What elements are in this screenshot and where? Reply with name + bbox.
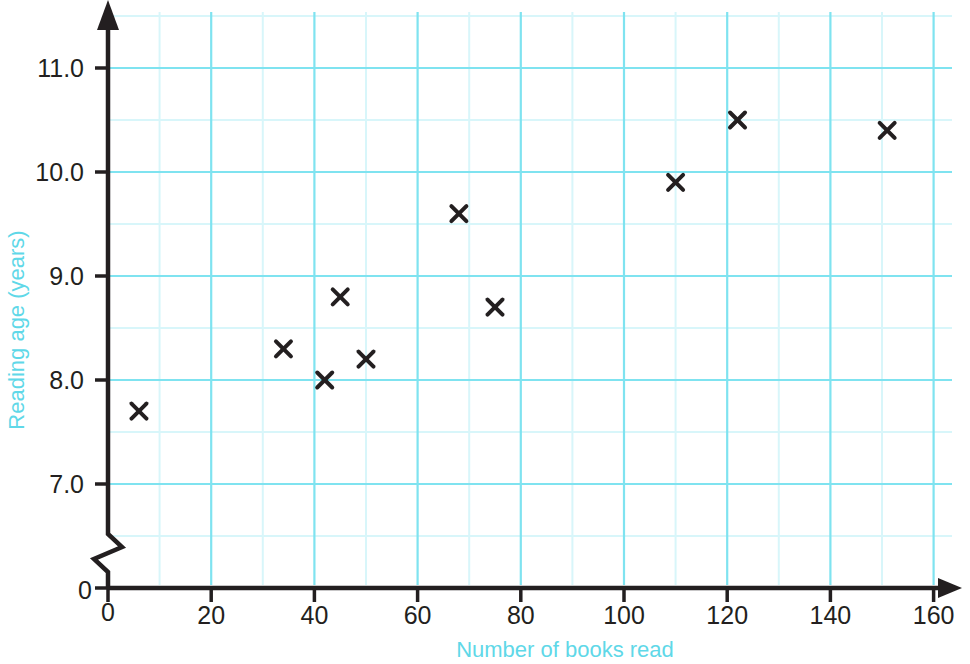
- x-tick-label: 40: [300, 601, 328, 629]
- data-points: [131, 113, 894, 419]
- y-tick-label: 8.0: [49, 366, 84, 394]
- data-point-marker: [488, 300, 503, 315]
- data-point-marker: [333, 289, 348, 304]
- y-axis-tick-labels: 7.08.09.010.011.0: [35, 54, 84, 498]
- x-tick-label: 20: [197, 601, 225, 629]
- x-axis-title: Number of books read: [456, 637, 674, 662]
- x-tick-label: 100: [603, 601, 645, 629]
- x-tick-label: 80: [507, 601, 535, 629]
- y-origin-label: 0: [78, 576, 92, 604]
- reading-age-scatter-chart: 7.08.09.010.011.0 20406080100120140160 N…: [0, 0, 970, 664]
- x-tick-label: 60: [404, 601, 432, 629]
- data-point-marker: [131, 404, 146, 419]
- y-tick-label: 9.0: [49, 262, 84, 290]
- y-axis-line-with-break: [94, 10, 122, 588]
- data-point-marker: [276, 341, 291, 356]
- x-tick-label: 160: [913, 601, 955, 629]
- x-tick-label: 120: [706, 601, 748, 629]
- x-origin-label: 0: [101, 598, 115, 626]
- y-axis-title: Reading age (years): [4, 230, 29, 429]
- x-axis-arrowhead: [938, 578, 962, 598]
- scatter-plot-figure: 7.08.09.010.011.0 20406080100120140160 N…: [0, 0, 970, 664]
- y-tick-label: 10.0: [35, 158, 84, 186]
- axis-ticks: [95, 68, 934, 602]
- x-axis-tick-labels: 20406080100120140160: [197, 601, 954, 629]
- y-tick-label: 7.0: [49, 470, 84, 498]
- minor-gridlines: [108, 12, 952, 585]
- y-tick-label: 11.0: [37, 54, 84, 82]
- x-tick-label: 140: [810, 601, 852, 629]
- major-gridlines: [108, 12, 952, 585]
- axis-lines: [94, 0, 962, 598]
- data-point-marker: [451, 206, 466, 221]
